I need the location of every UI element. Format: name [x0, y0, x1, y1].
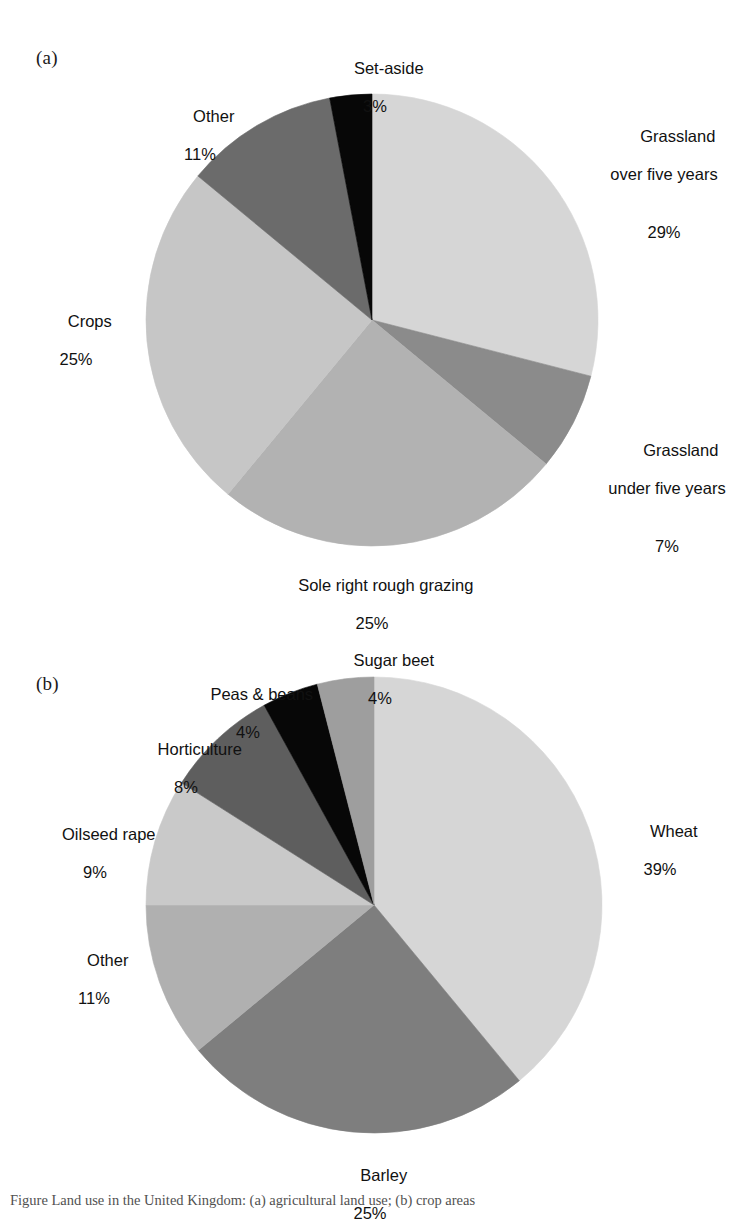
- slice-label-set-aside: Set-aside 3%: [300, 40, 450, 155]
- panel-letter-b: (b): [36, 673, 59, 695]
- slice-value-oilseed-rape: 9%: [22, 863, 168, 882]
- slice-label-crops-text: Crops: [68, 312, 112, 330]
- pie-chart-panel-b: (b) Sugar beet 4% Peas & beans 4% Hortic…: [0, 610, 739, 1209]
- slice-label-barley-text: Barley: [360, 1166, 407, 1184]
- slice-label-grassland-over-five-years: Grassland over five years 29%: [590, 108, 738, 280]
- slice-label-set-aside-text: Set-aside: [354, 59, 424, 77]
- slice-value-grassland-over: 29%: [590, 223, 738, 242]
- panel-letter-a: (a): [36, 47, 58, 69]
- slice-value-wheat: 39%: [600, 860, 720, 879]
- slice-label-oilseed-rape: Oilseed rape 9%: [22, 806, 168, 921]
- slice-value-grassland-under: 7%: [592, 537, 739, 556]
- slice-label-other-a-text: Other: [193, 107, 234, 125]
- slice-value-crops: 25%: [28, 350, 124, 369]
- slice-label-sole-right-text: Sole right rough grazing: [298, 576, 473, 594]
- slice-label-grassland-over-line1: Grassland: [640, 127, 715, 145]
- slice-label-sugar-beet-text: Sugar beet: [353, 651, 434, 669]
- slice-label-grassland-under-line1: Grassland: [643, 441, 718, 459]
- slice-value-horticulture: 8%: [112, 778, 260, 797]
- slice-label-grassland-under-line2: under five years: [592, 479, 739, 498]
- slice-value-other-a: 11%: [152, 145, 248, 164]
- slice-label-other-b: Other 11%: [44, 932, 144, 1047]
- pie-chart-panel-a: (a) Set-aside 3% Other 11% Grassland ove…: [0, 0, 739, 610]
- slice-label-wheat: Wheat 39%: [600, 803, 720, 918]
- figure-caption: Figure Land use in the United Kingdom: (…: [10, 1192, 735, 1208]
- slice-label-other-a: Other 11%: [152, 88, 248, 203]
- slice-label-other-b-text: Other: [87, 951, 128, 969]
- slice-label-barley: Barley 25%: [300, 1147, 440, 1223]
- slice-label-grassland-over-line2: over five years: [590, 165, 738, 184]
- slice-label-crops: Crops 25%: [28, 293, 124, 408]
- slice-label-horticulture-text: Horticulture: [158, 740, 242, 758]
- slice-label-peas-and-beans-text: Peas & beans: [210, 685, 313, 703]
- slice-label-grassland-under-five-years: Grassland under five years 7%: [592, 422, 739, 594]
- slice-value-other-b: 11%: [44, 989, 144, 1008]
- slice-label-oilseed-rape-text: Oilseed rape: [62, 825, 156, 843]
- slice-value-set-aside: 3%: [300, 97, 450, 116]
- slice-label-wheat-text: Wheat: [650, 822, 698, 840]
